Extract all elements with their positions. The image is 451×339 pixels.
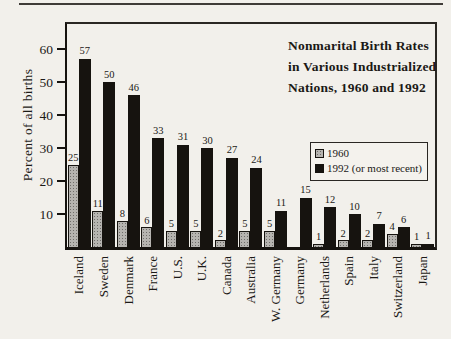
value-label-1992-w-germany: 11 (276, 198, 286, 209)
value-label-1960-france: 6 (144, 216, 149, 227)
bar-1960-sweden: 11 (92, 211, 103, 247)
bar-group-denmark: 846 (116, 24, 141, 247)
x-label-cell-italy: Italy (361, 252, 386, 337)
y-tick-20 (57, 180, 65, 182)
chart-title-line-1: Nonmarital Birth Rates (288, 36, 436, 57)
x-label-cell-switzerland: Switzerland (386, 252, 411, 337)
y-axis-title: Percent of all births (20, 69, 36, 181)
x-label-u-k: U.K. (195, 256, 209, 281)
x-label-australia: Australia (244, 256, 258, 304)
bar-group-canada: 227 (214, 24, 239, 247)
bar-1992-spain: 10 (349, 214, 361, 247)
chart-title-line-3: Nations, 1960 and 1992 (288, 78, 436, 99)
x-label-u-s: U.S. (171, 256, 185, 279)
bar-1992-denmark: 46 (128, 95, 140, 247)
y-tick-50 (57, 81, 65, 83)
bar-1960-w-germany: 5 (264, 231, 275, 248)
value-label-1960-italy: 2 (365, 229, 370, 240)
y-tick-10 (57, 213, 65, 215)
value-label-1992-sweden: 50 (104, 70, 115, 81)
bar-1992-japan: 1 (422, 244, 434, 247)
bar-1960-france: 6 (141, 227, 152, 247)
y-tick-label-20: 20 (40, 174, 54, 188)
bar-group-sweden: 1150 (92, 24, 117, 247)
x-label-switzerland: Switzerland (391, 256, 405, 318)
value-label-1992-u-k: 30 (202, 136, 213, 147)
x-label-denmark: Denmark (122, 256, 136, 304)
value-label-1992-australia: 24 (251, 155, 262, 166)
value-label-1992-denmark: 46 (129, 83, 140, 94)
value-label-1960-w-germany: 5 (267, 219, 272, 230)
x-label-japan: Japan (416, 256, 430, 286)
x-label-w-germany: W. Germany (269, 256, 283, 322)
x-label-iceland: Iceland (72, 256, 86, 294)
bar-group-w-germany: 511 (263, 24, 288, 247)
y-tick-30 (57, 147, 65, 149)
bar-1992-canada: 27 (226, 158, 238, 247)
bar-1960-iceland: 25 (68, 165, 79, 248)
value-label-1960-canada: 2 (218, 229, 223, 240)
value-label-1960-sweden: 11 (93, 199, 103, 210)
chart-page: Percent of all births 255711508466335315… (0, 0, 451, 339)
bar-1992-u-k: 30 (201, 148, 213, 247)
x-label-cell-u-k: U.K. (190, 252, 215, 337)
x-label-cell-denmark: Denmark (116, 252, 141, 337)
x-label-cell-canada: Canada (214, 252, 239, 337)
value-label-1992-france: 33 (153, 126, 164, 137)
bar-group-australia: 524 (239, 24, 264, 247)
value-label-1992-netherlands: 12 (325, 195, 336, 206)
x-axis-labels: IcelandSwedenDenmarkFranceU.S.U.K.Canada… (67, 252, 435, 337)
y-tick-label-40: 40 (40, 108, 54, 122)
legend-label-1992: 1992 (or most recent) (327, 161, 422, 176)
bar-1992-germany: 15 (300, 198, 312, 248)
bar-1960-spain: 2 (338, 240, 349, 247)
value-label-1960-japan: 1 (414, 232, 419, 243)
bar-1960-australia: 5 (239, 231, 250, 248)
value-label-1992-spain: 10 (349, 202, 360, 213)
value-label-1992-japan: 1 (426, 231, 431, 242)
x-label-sweden: Sweden (97, 256, 111, 297)
bar-1960-japan: 1 (411, 244, 422, 247)
value-label-1960-spain: 2 (340, 229, 345, 240)
value-label-1992-iceland: 57 (80, 46, 91, 57)
x-label-cell-iceland: Iceland (67, 252, 92, 337)
bar-1992-switzerland: 6 (398, 227, 410, 247)
x-label-cell-france: France (141, 252, 166, 337)
x-label-netherlands: Netherlands (318, 256, 332, 319)
value-label-1960-australia: 5 (242, 219, 247, 230)
bar-1960-denmark: 8 (117, 221, 128, 247)
bar-1992-italy: 7 (373, 224, 385, 247)
chart-title: Nonmarital Birth Rates in Various Indust… (288, 36, 436, 99)
value-label-1992-canada: 27 (227, 145, 238, 156)
y-tick-label-30: 30 (40, 141, 54, 155)
y-tick-label-60: 60 (40, 42, 54, 56)
bar-1960-netherlands: 1 (313, 244, 324, 247)
x-label-canada: Canada (220, 256, 234, 295)
value-label-1960-u-s: 5 (169, 219, 174, 230)
bar-group-u-k: 530 (190, 24, 215, 247)
x-label-france: France (146, 256, 160, 291)
x-label-cell-australia: Australia (239, 252, 264, 337)
bar-1960-canada: 2 (215, 240, 226, 247)
x-label-spain: Spain (342, 256, 356, 286)
x-label-cell-netherlands: Netherlands (312, 252, 337, 337)
value-label-1992-germany: 15 (300, 185, 311, 196)
legend-item-1960: 1960 (315, 146, 423, 161)
bar-1992-u-s: 31 (177, 145, 189, 247)
x-label-cell-japan: Japan (410, 252, 435, 337)
value-label-1960-denmark: 8 (120, 209, 125, 220)
value-label-1992-switzerland: 6 (401, 215, 406, 226)
x-label-cell-sweden: Sweden (92, 252, 117, 337)
bar-1992-sweden: 50 (103, 82, 115, 247)
x-label-cell-w-germany: W. Germany (263, 252, 288, 337)
bar-1992-iceland: 57 (79, 59, 91, 247)
x-label-cell-u-s: U.S. (165, 252, 190, 337)
y-tick-60 (57, 48, 65, 50)
chart-title-line-2: in Various Industrialized (288, 57, 436, 78)
bar-group-france: 633 (141, 24, 166, 247)
bar-1960-u-s: 5 (166, 231, 177, 248)
y-tick-40 (57, 114, 65, 116)
legend-item-1992: 1992 (or most recent) (315, 161, 423, 176)
x-label-germany: Germany (293, 256, 307, 304)
x-label-cell-spain: Spain (337, 252, 362, 337)
